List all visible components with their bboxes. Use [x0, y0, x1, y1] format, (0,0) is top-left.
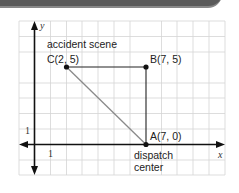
point-c-label: C(2, 5) — [47, 53, 79, 65]
segment-ca — [67, 67, 147, 145]
x-axis-label: x — [217, 149, 223, 160]
y-tick-label: 1 — [25, 125, 30, 136]
point-a — [143, 142, 148, 147]
x-axis-left-arrow-icon — [19, 141, 28, 148]
x-tick-label: 1 — [48, 148, 53, 159]
y-axis-label: y — [39, 20, 45, 31]
x-axis — [19, 141, 225, 148]
y-axis-up-arrow-icon — [31, 21, 38, 30]
point-b — [143, 64, 148, 69]
accident-scene-label: accident scene — [47, 38, 117, 50]
point-a-label: A(7, 0) — [150, 130, 182, 142]
x-axis-right-arrow-icon — [216, 141, 225, 148]
y-axis-down-arrow-icon — [31, 166, 38, 175]
point-b-label: B(7, 5) — [150, 53, 182, 65]
point-c — [64, 64, 69, 69]
coordinate-grid: y x 1 1 accident scene C(2, 5) B(7, 5) A… — [0, 0, 239, 193]
dispatch-label: dispatch — [134, 149, 173, 161]
center-label: center — [134, 161, 164, 173]
